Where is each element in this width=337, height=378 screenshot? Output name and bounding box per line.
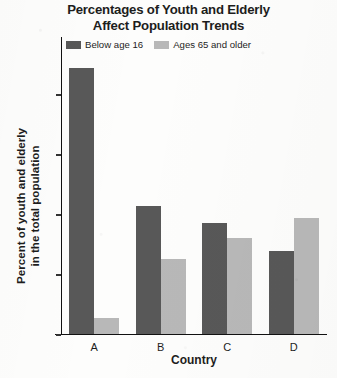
legend-item-ages-65-and-older: Ages 65 and older (154, 39, 251, 50)
x-axis-category-label: A (61, 341, 128, 353)
legend-label-below-age-16: Below age 16 (85, 39, 143, 50)
legend-label-ages-65-and-older: Ages 65 and older (173, 39, 251, 50)
chart-title-line-1: Percentages of Youth and Elderly (0, 2, 337, 18)
x-axis-title: Country (61, 353, 327, 367)
bar-b-series-2 (161, 259, 186, 333)
bar-series-container: ABCD (61, 58, 327, 334)
legend-swatch-below-age-16 (66, 41, 81, 49)
x-axis-category-label: D (261, 341, 328, 353)
bar-d-series-2 (294, 218, 319, 333)
bar-group: C (194, 58, 261, 334)
x-axis-line (55, 334, 327, 335)
bar-d-series-1 (269, 251, 294, 333)
bar-c-series-2 (227, 238, 252, 334)
y-axis-title-line-2: in the total population (28, 86, 42, 326)
y-axis-tick-mark (56, 334, 61, 335)
x-axis-category-label: C (194, 341, 261, 353)
bar-group: A (61, 58, 128, 334)
bar-a-series-1 (69, 68, 94, 334)
legend-swatch-ages-65-and-older (154, 41, 169, 49)
y-axis-title-line-1: Percent of youth and elderly (14, 86, 28, 326)
chart-title: Percentages of Youth and Elderly Affect … (0, 2, 337, 33)
bar-c-series-1 (202, 223, 227, 334)
bar-b-series-1 (136, 206, 161, 333)
chart-title-line-2: Affect Population Trends (0, 18, 337, 34)
y-axis-title: Percent of youth and elderly in the tota… (14, 86, 42, 326)
legend-item-below-age-16: Below age 16 (66, 39, 143, 50)
bar-group: D (261, 58, 328, 334)
bar-group: B (128, 58, 195, 334)
bar-a-series-2 (94, 318, 119, 334)
x-axis-category-label: B (128, 341, 195, 353)
plot-area: 010203040 ABCD (61, 57, 327, 335)
chart-legend: Below age 16 Ages 65 and older (66, 39, 251, 50)
